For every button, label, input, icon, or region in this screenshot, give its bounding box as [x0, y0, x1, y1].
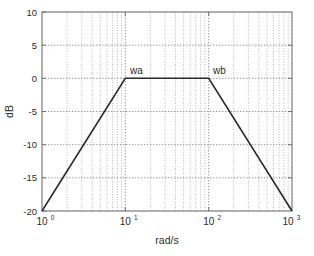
ytick-label-10: 10	[26, 7, 37, 18]
ytick-label-5: 5	[32, 40, 37, 51]
xtick-exp-2: 2	[217, 214, 221, 221]
ytick-label-0: 0	[32, 73, 37, 84]
xtick-label-10e1: 10 1	[120, 214, 138, 227]
xtick-exp-0: 0	[51, 214, 55, 221]
annotation-wb: wb	[212, 65, 226, 76]
ytick-label-neg5: -5	[29, 106, 37, 117]
ytick-label-neg15: -15	[23, 172, 37, 183]
xtick-label-10e2: 10 2	[203, 214, 221, 227]
xtick-exp-3: 3	[297, 214, 301, 221]
bode-plot-figure: 10 5 0 -5 -10 -15 -20 10 0 10 1 10 2 10 …	[0, 0, 314, 256]
xtick-label-10e0: 10 0	[36, 214, 54, 227]
xtick-base-0: 10	[36, 216, 48, 227]
xtick-exp-1: 1	[134, 214, 138, 221]
xtick-base-1: 10	[120, 216, 132, 227]
annotation-wa: wa	[129, 65, 143, 76]
ytick-label-neg10: -10	[23, 139, 37, 150]
x-axis-label: rad/s	[155, 234, 178, 246]
xtick-label-10e3: 10 3	[282, 214, 300, 227]
xtick-base-2: 10	[203, 216, 215, 227]
plot-area-background	[42, 12, 292, 211]
ytick-label-neg20: -20	[23, 206, 37, 217]
chart-svg: 10 5 0 -5 -10 -15 -20 10 0 10 1 10 2 10 …	[0, 0, 314, 256]
xtick-base-3: 10	[282, 216, 294, 227]
y-axis-label: dB	[3, 105, 15, 118]
